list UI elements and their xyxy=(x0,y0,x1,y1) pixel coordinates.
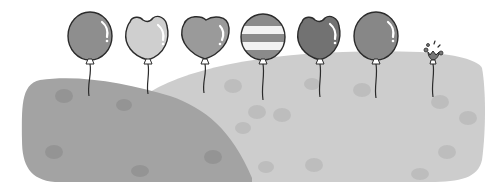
illustration xyxy=(0,0,495,187)
striped-balloon xyxy=(240,14,286,64)
round-balloon xyxy=(68,12,112,64)
heart-balloon xyxy=(182,17,229,64)
cat-ear-balloon xyxy=(126,16,168,64)
balloon-scene xyxy=(0,0,495,187)
